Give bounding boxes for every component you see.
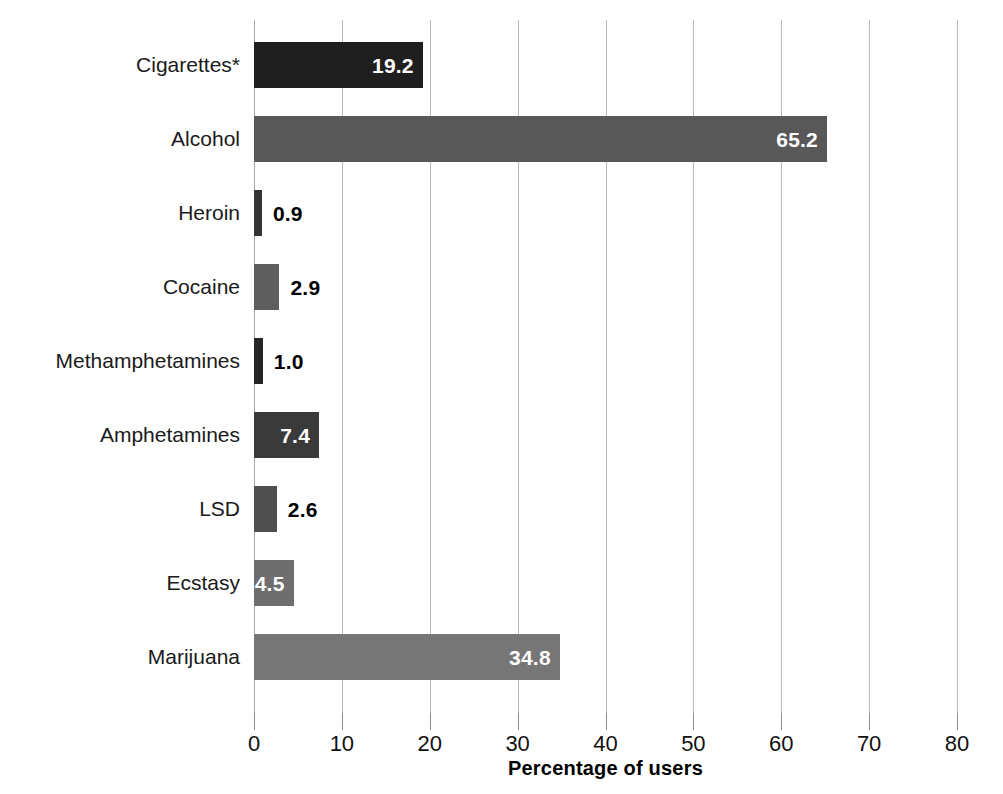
bar-value-label: 7.4 — [280, 425, 319, 446]
x-tick-80 — [957, 713, 958, 730]
x-axis: 01020304050607080 — [254, 713, 957, 753]
x-tick-50 — [693, 713, 694, 730]
bar-group: 2.6 — [254, 486, 318, 532]
x-tick-60 — [781, 713, 782, 730]
category-label: Ecstasy — [14, 572, 254, 593]
x-tick-70 — [869, 713, 870, 730]
bar — [254, 338, 263, 384]
x-axis-title: Percentage of users — [254, 757, 957, 780]
x-tick-label-80: 80 — [945, 733, 969, 755]
category-label: Alcohol — [14, 128, 254, 149]
x-tick-label-70: 70 — [857, 733, 881, 755]
gridline-70 — [869, 20, 870, 713]
x-tick-40 — [606, 713, 607, 730]
bar-value-label: 65.2 — [776, 129, 827, 150]
x-tick-label-20: 20 — [418, 733, 442, 755]
bar-value-label: 1.0 — [263, 351, 304, 372]
bar: 4.5 — [254, 560, 294, 606]
x-tick-label-50: 50 — [681, 733, 705, 755]
bar-group: 4.5 — [254, 560, 294, 606]
category-axis: Cigarettes*AlcoholHeroinCocaineMethamphe… — [0, 20, 254, 713]
x-tick-10 — [342, 713, 343, 730]
bar — [254, 190, 262, 236]
plot-area: 19.265.20.92.91.07.42.64.534.8 — [254, 20, 957, 713]
bar-group: 2.9 — [254, 264, 320, 310]
bar-value-label: 34.8 — [509, 647, 560, 668]
bar — [254, 264, 279, 310]
category-label: Cigarettes* — [14, 54, 254, 75]
bar — [254, 486, 277, 532]
bar: 19.2 — [254, 42, 423, 88]
x-tick-label-0: 0 — [248, 733, 260, 755]
x-tick-30 — [518, 713, 519, 730]
category-label: Cocaine — [14, 276, 254, 297]
x-tick-label-10: 10 — [330, 733, 354, 755]
bar: 65.2 — [254, 116, 827, 162]
category-label: Amphetamines — [14, 424, 254, 445]
bar-value-label: 0.9 — [262, 203, 303, 224]
x-tick-0 — [254, 713, 255, 730]
bar-value-label: 19.2 — [372, 55, 423, 76]
x-tick-20 — [430, 713, 431, 730]
bar-chart-figure: Cigarettes*AlcoholHeroinCocaineMethamphe… — [0, 0, 1003, 794]
bar-group: 1.0 — [254, 338, 304, 384]
bar: 7.4 — [254, 412, 319, 458]
bar-value-label: 2.9 — [279, 277, 320, 298]
bar-group: 7.4 — [254, 412, 319, 458]
gridline-80 — [957, 20, 958, 713]
bar: 34.8 — [254, 634, 560, 680]
bar-group: 19.2 — [254, 42, 423, 88]
category-label: Methamphetamines — [14, 350, 254, 371]
x-tick-label-60: 60 — [769, 733, 793, 755]
bar-group: 0.9 — [254, 190, 303, 236]
x-tick-label-30: 30 — [505, 733, 529, 755]
bar-value-label: 4.5 — [255, 573, 294, 594]
category-label: Marijuana — [14, 646, 254, 667]
category-label: Heroin — [14, 202, 254, 223]
bar-value-label: 2.6 — [277, 499, 318, 520]
x-tick-label-40: 40 — [593, 733, 617, 755]
bar-group: 65.2 — [254, 116, 827, 162]
category-label: LSD — [14, 498, 254, 519]
bar-group: 34.8 — [254, 634, 560, 680]
